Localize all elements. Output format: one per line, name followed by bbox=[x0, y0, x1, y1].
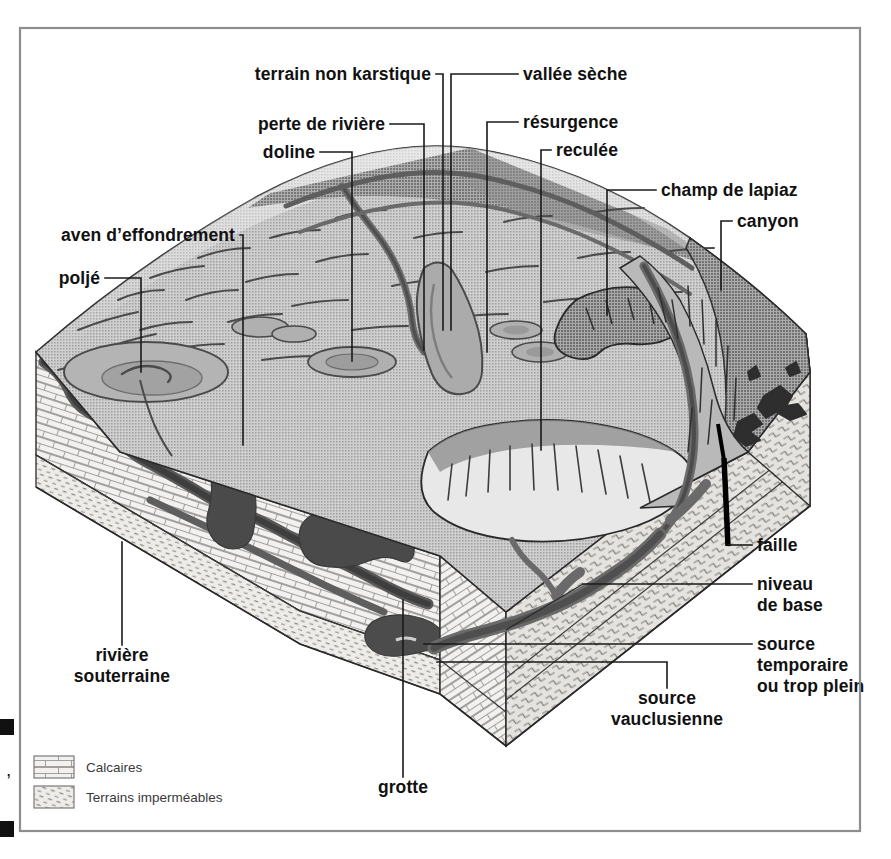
comma-mark: , bbox=[6, 759, 11, 780]
label-riviere-souterraine-2: souterraine bbox=[74, 666, 171, 686]
legend-swatch-terrains-impermeables bbox=[34, 786, 74, 808]
label-polje: poljé bbox=[59, 268, 101, 288]
label-vallee-seche: vallée sèche bbox=[523, 64, 628, 84]
label-perte-de-riviere: perte de rivière bbox=[258, 114, 385, 134]
crop-mark-1 bbox=[0, 821, 14, 837]
figure-canvas: terrain non karstiquevallée sècheperte d… bbox=[0, 0, 891, 859]
karst-block-diagram: terrain non karstiquevallée sècheperte d… bbox=[0, 0, 891, 859]
label-doline: doline bbox=[263, 142, 315, 162]
label-grotte: grotte bbox=[378, 777, 428, 797]
label-niveau-de-base-2: de base bbox=[757, 595, 823, 615]
label-terrain-non-karstique: terrain non karstique bbox=[255, 64, 431, 84]
label-aven-deffondrement: aven d’effondrement bbox=[61, 225, 235, 245]
crop-mark-0 bbox=[0, 719, 14, 735]
label-champ-de-lapiaz: champ de lapiaz bbox=[661, 180, 798, 200]
label-riviere-souterraine: rivière bbox=[95, 645, 148, 665]
legend-swatch-calcaires bbox=[34, 756, 74, 778]
label-source-vauclusienne-2: vauclusienne bbox=[611, 709, 723, 729]
label-reculee: reculée bbox=[556, 140, 618, 160]
label-resurgence: résurgence bbox=[523, 112, 619, 132]
legend: Calcaires Terrains imperméables bbox=[34, 756, 223, 808]
label-faille: faille bbox=[757, 535, 798, 555]
legend-label-calcaires: Calcaires bbox=[86, 760, 143, 775]
label-source-temporaire-3: ou trop plein bbox=[757, 676, 864, 696]
label-source-temporaire-2: temporaire bbox=[757, 655, 849, 675]
label-source-vauclusienne: source bbox=[638, 688, 696, 708]
label-source-temporaire: source bbox=[757, 634, 815, 654]
legend-label-terrains-impermeables: Terrains imperméables bbox=[86, 790, 223, 805]
label-niveau-de-base: niveau bbox=[757, 574, 813, 594]
label-canyon: canyon bbox=[737, 211, 799, 231]
